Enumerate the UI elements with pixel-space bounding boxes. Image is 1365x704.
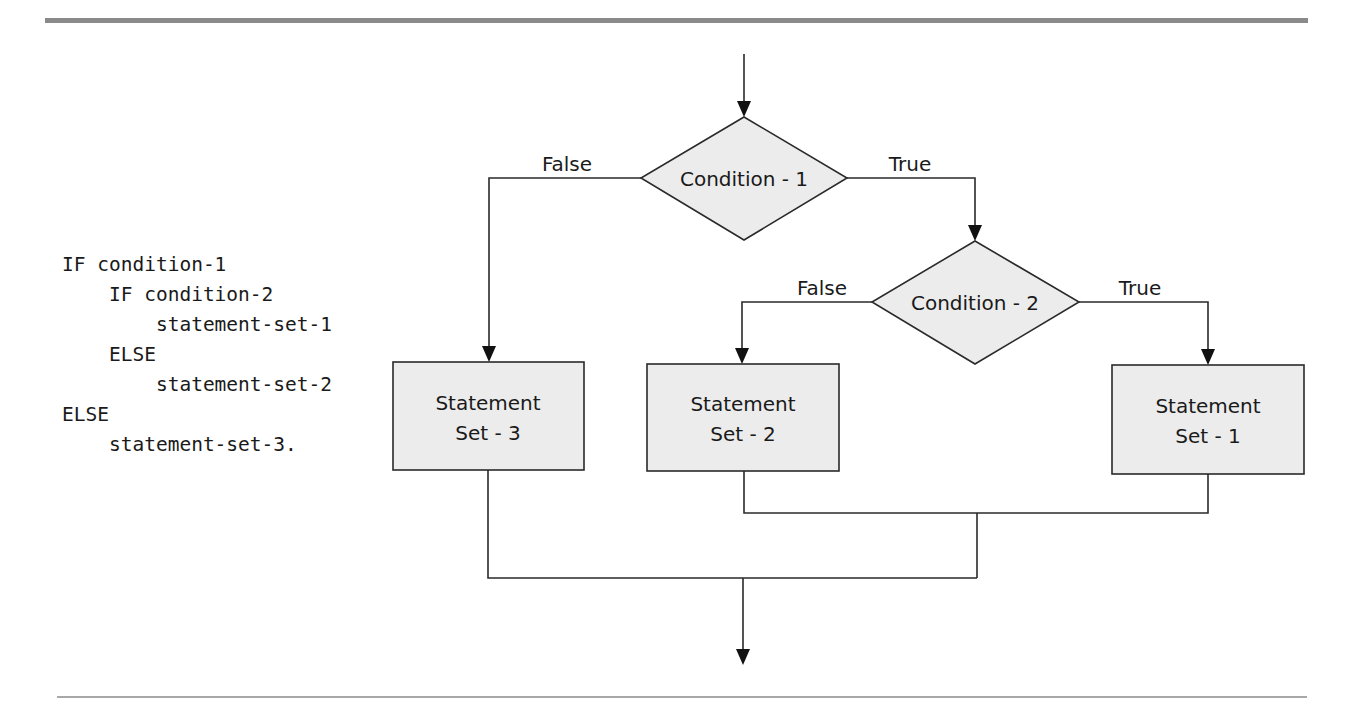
entry-arrow	[737, 54, 751, 117]
branch-label-true: True	[888, 152, 931, 176]
statement-set-1-box: Statement Set - 1	[1112, 365, 1304, 474]
statement-line-1: Statement	[690, 392, 795, 416]
statement-line-2: Set - 1	[1175, 424, 1241, 448]
c2-true-branch: True	[1079, 276, 1215, 365]
arrowhead-icon	[736, 649, 750, 665]
decision-label: Condition - 2	[911, 291, 1039, 315]
arrowhead-icon	[968, 225, 982, 241]
statement-set-3-box: Statement Set - 3	[393, 362, 584, 470]
outer-join-connector	[488, 470, 977, 578]
c1-true-branch: True	[847, 152, 982, 241]
decision-label: Condition - 1	[680, 167, 808, 191]
exit-arrow	[736, 578, 750, 665]
statement-line-1: Statement	[1155, 394, 1260, 418]
c2-false-branch: False	[735, 276, 872, 364]
flowchart: Condition - 1 False True Condition - 2 F…	[0, 0, 1365, 704]
c1-false-branch: False	[482, 152, 641, 362]
statement-line-2: Set - 2	[710, 422, 776, 446]
arrowhead-icon	[482, 346, 496, 362]
decision-condition-2: Condition - 2	[872, 241, 1079, 364]
branch-label-true: True	[1118, 276, 1161, 300]
branch-label-false: False	[797, 276, 847, 300]
branch-label-false: False	[542, 152, 592, 176]
arrowhead-icon	[1201, 349, 1215, 365]
statement-line-1: Statement	[435, 391, 540, 415]
bottom-rule	[57, 696, 1307, 698]
arrowhead-icon	[737, 101, 751, 117]
statement-set-2-box: Statement Set - 2	[647, 364, 839, 471]
arrowhead-icon	[735, 348, 749, 364]
decision-condition-1: Condition - 1	[641, 117, 847, 240]
statement-line-2: Set - 3	[455, 421, 521, 445]
inner-join-connector	[744, 471, 1208, 578]
